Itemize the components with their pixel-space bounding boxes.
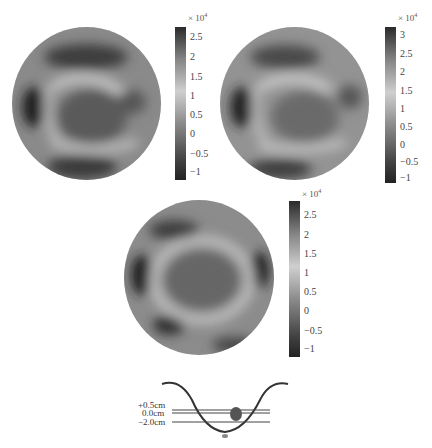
colorbar-1-exponent: × 104 (188, 12, 207, 23)
colorbar-2-tick: 2 (400, 67, 405, 77)
colorbar-2 (385, 27, 396, 183)
colorbar-1 (175, 27, 186, 180)
colorbar-2-tick: −0.5 (400, 157, 418, 167)
colorbar-1-tick: 0 (190, 129, 195, 139)
colorbar-1-tick: 0.5 (190, 110, 203, 120)
exponent-label: × 10 (398, 13, 414, 23)
colorbar-2-tick: 3 (400, 30, 405, 40)
colorbar-2-tick: 0.5 (400, 122, 413, 132)
colorbar-3-tick: −0.5 (304, 326, 322, 336)
colorbar-3-tick: 0.5 (304, 287, 317, 297)
colorbar-2-tick: 1 (400, 104, 405, 114)
depth-label-minus-2-0: −2.0cm (138, 418, 165, 427)
exponent-label: × 10 (302, 189, 318, 199)
colorbar-1-tick: 1.5 (190, 72, 203, 82)
colorbar-3-tick: 2 (304, 230, 309, 240)
exponent-value: 4 (204, 12, 207, 18)
colorbar-2-exponent: × 104 (398, 12, 417, 23)
exponent-value: 4 (414, 12, 417, 18)
colorbar-1-tick: 2 (190, 52, 195, 62)
field-map-2 (220, 27, 369, 180)
field-map-3 (124, 200, 274, 355)
colorbar-3-tick: 0 (304, 306, 309, 316)
exponent-value: 4 (318, 188, 321, 194)
colorbar-3 (289, 201, 300, 357)
colorbar-1-tick: −0.5 (190, 149, 208, 159)
colorbar-3-tick: 1.5 (304, 249, 317, 259)
colorbar-3-tick: 1 (304, 268, 309, 278)
colorbar-2-tick: 2.5 (400, 49, 413, 59)
field-map-1 (12, 27, 161, 180)
colorbar-2-tick: 0 (400, 140, 405, 150)
colorbar-3-tick: −1 (304, 344, 315, 354)
colorbar-3-exponent: × 104 (302, 188, 321, 199)
colorbar-2-tick: −1 (400, 173, 411, 183)
colorbar-2-tick: 1.5 (400, 86, 413, 96)
colorbar-3-tick: 2.5 (304, 210, 317, 220)
colorbar-1-tick: 1 (190, 91, 195, 101)
colorbar-1-tick: 2.5 (190, 32, 203, 42)
cross-section-diagram: +0.5cm 0.0cm −2.0cm (120, 370, 300, 448)
exponent-label: × 10 (188, 13, 204, 23)
colorbar-1-tick: −1 (190, 167, 201, 177)
